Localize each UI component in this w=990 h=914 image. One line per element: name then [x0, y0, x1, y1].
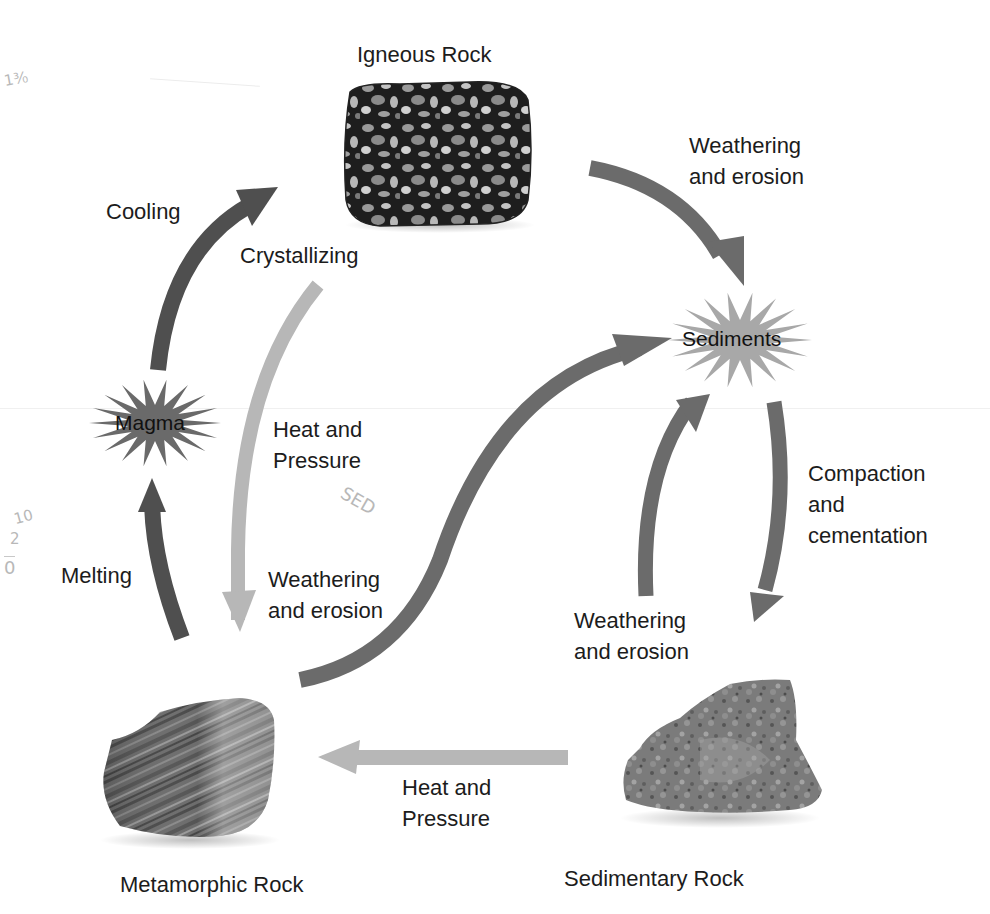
metamorphic-rock-label: Metamorphic Rock — [120, 872, 303, 898]
process-label-igneous-to-metamorphic: Heat and Pressure — [273, 414, 362, 476]
process-label-line: Heat and — [402, 772, 491, 803]
process-label-line: cementation — [808, 520, 928, 551]
sedimentary-rock-image — [620, 680, 822, 829]
process-label-metamorphic-to-sediments: Weathering and erosion — [268, 564, 383, 626]
process-label-line: Weathering — [268, 564, 383, 595]
process-label-line: Pressure — [273, 445, 362, 476]
process-label-igneous-to-sediments: Weathering and erosion — [689, 130, 804, 192]
diagram-canvas — [0, 0, 990, 914]
process-label-cooling: Cooling — [106, 196, 181, 227]
process-label-line: and erosion — [574, 636, 689, 667]
arrow-metamorphic-to-magma — [138, 478, 182, 638]
process-label-sedimentary-to-sediments: Weathering and erosion — [574, 605, 689, 667]
igneous-rock-image — [345, 82, 535, 233]
process-label-compaction: Compaction and cementation — [808, 458, 928, 551]
process-label-line: and erosion — [689, 161, 804, 192]
process-label-melting: Melting — [61, 560, 132, 591]
sediments-label: Sediments — [682, 327, 781, 351]
metamorphic-rock-image — [100, 698, 280, 849]
rock-cycle-diagram: Igneous Rock Sedimentary Rock Metamorphi… — [0, 0, 990, 914]
handwritten-note: 0 — [4, 556, 15, 578]
process-label-line: Weathering — [689, 130, 804, 161]
arrow-sediments-to-sedimentary — [750, 402, 784, 622]
arrow-sedimentary-to-sediments — [645, 394, 710, 596]
process-label-line: Weathering — [574, 605, 689, 636]
process-label-line: Heat and — [273, 414, 362, 445]
process-label-sedimentary-to-metamorphic: Heat and Pressure — [402, 772, 491, 834]
igneous-rock-label: Igneous Rock — [357, 42, 492, 68]
process-label-crystallizing: Crystallizing — [240, 240, 359, 271]
magma-label: Magma — [115, 411, 185, 435]
arrow-sedimentary-to-metamorphic — [318, 740, 568, 774]
sedimentary-rock-label: Sedimentary Rock — [564, 866, 744, 892]
process-label-line: Compaction — [808, 458, 928, 489]
process-label-line: and erosion — [268, 595, 383, 626]
handwritten-note: 2 — [10, 530, 20, 548]
process-label-line: and — [808, 489, 928, 520]
process-label-line: Pressure — [402, 803, 491, 834]
